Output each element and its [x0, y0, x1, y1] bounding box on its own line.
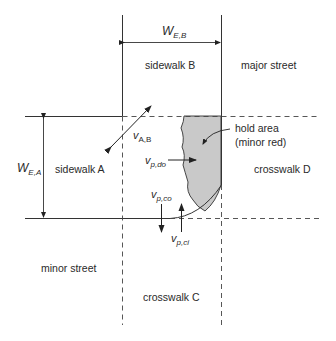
symbol-w-ea: WE,A [17, 161, 41, 177]
symbol-v-pco: vp,co [151, 188, 172, 203]
symbol-w-eb: WE,B [162, 24, 187, 40]
label-crosswalk-d: crosswalk D [254, 163, 311, 175]
label-major-street: major street [241, 59, 297, 71]
label-sidewalk-a: sidewalk A [55, 163, 105, 175]
symbol-v-pci: vp,ci [171, 232, 189, 247]
label-crosswalk-c: crosswalk C [143, 291, 200, 303]
hold-area-region [181, 116, 221, 211]
symbol-v-ab: vA,B [133, 129, 151, 144]
intersection-diagram: sidewalk B major street sidewalk A minor… [0, 0, 336, 341]
label-minor-street: minor street [41, 262, 97, 274]
label-sidewalk-b: sidewalk B [145, 59, 195, 71]
symbol-v-pdo: vp,do [145, 154, 167, 169]
label-hold-area: hold area [235, 122, 279, 134]
label-hold-area-minor-red: (minor red) [235, 136, 286, 148]
